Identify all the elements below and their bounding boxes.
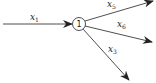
edge-label-x1: x1 <box>30 12 39 23</box>
edge-label-x6: x6 <box>117 19 126 30</box>
node-1: 1 <box>73 18 86 31</box>
edge-label-x5: x5 <box>107 0 116 10</box>
edge-x1: x1 <box>3 12 72 24</box>
flow-diagram: x1 1 x5 x6 x3 <box>0 0 156 83</box>
edge-x6: x6 <box>85 19 152 42</box>
edge-x5: x5 <box>85 0 153 21</box>
edge-x3: x3 <box>83 29 129 80</box>
node-label: 1 <box>76 20 81 29</box>
edge-label-x3: x3 <box>108 44 117 55</box>
